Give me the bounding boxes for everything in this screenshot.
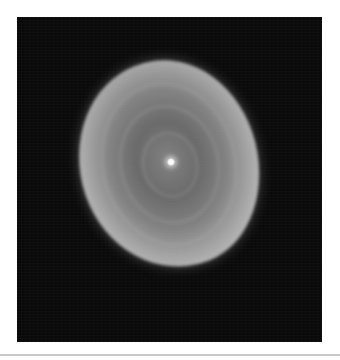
page: [0, 0, 340, 360]
astronomy-image: [17, 17, 322, 342]
divider-line: [0, 354, 340, 356]
central-star: [167, 158, 175, 166]
